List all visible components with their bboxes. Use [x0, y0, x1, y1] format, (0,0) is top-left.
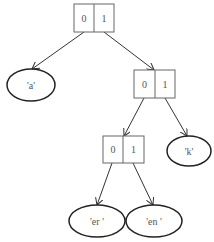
edge-n2-0-er: [97, 163, 112, 205]
internal-node-root: 0 1: [74, 4, 114, 32]
edge-n1-0-n2: [124, 98, 144, 136]
n1-branch-1-label: 1: [163, 79, 168, 90]
root-branch-0-label: 0: [82, 13, 87, 24]
n2-branch-1-label: 1: [131, 144, 136, 155]
leaf-er-label: 'er ': [90, 216, 104, 227]
leaf-node-a: 'a': [7, 69, 55, 101]
leaf-en-label: 'en ': [146, 216, 162, 227]
n2-branch-0-label: 0: [111, 144, 116, 155]
internal-node-n1: 0 1: [134, 70, 175, 98]
leaf-node-en: 'en ': [126, 205, 182, 237]
leaf-a-label: 'a': [27, 80, 35, 91]
edges: [32, 32, 187, 205]
n1-branch-0-label: 0: [142, 79, 147, 90]
root-branch-1-label: 1: [102, 13, 107, 24]
trie-diagram: 0 1 0 1 0 1 'a' 'k' 'er ' 'en ': [0, 0, 214, 242]
leaf-node-k: 'k': [167, 136, 211, 166]
edge-n2-1-en: [133, 163, 153, 205]
edge-n1-1-k: [165, 98, 187, 136]
leaf-node-er: 'er ': [69, 205, 125, 237]
internal-node-n2: 0 1: [103, 136, 144, 163]
edge-root-0-a: [32, 32, 84, 69]
leaf-k-label: 'k': [185, 146, 194, 157]
edge-root-1-n1: [104, 32, 154, 70]
